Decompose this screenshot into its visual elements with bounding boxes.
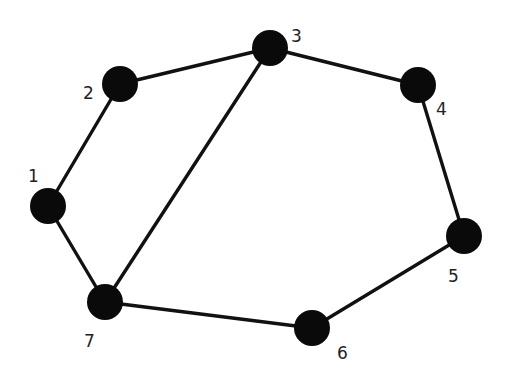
edge-3-4 — [270, 48, 418, 85]
node-label-3: 3 — [291, 26, 302, 46]
node-4 — [400, 67, 436, 103]
node-label-2: 2 — [83, 83, 94, 103]
edge-5-6 — [312, 236, 464, 328]
node-5 — [446, 218, 482, 254]
node-label-7: 7 — [84, 331, 95, 351]
edge-2-3 — [120, 48, 270, 84]
node-label-4: 4 — [436, 99, 447, 119]
node-label-1: 1 — [28, 166, 39, 186]
node-6 — [294, 310, 330, 346]
node-7 — [87, 284, 123, 320]
node-layer — [30, 30, 482, 346]
edge-6-7 — [105, 302, 312, 328]
node-1 — [30, 188, 66, 224]
node-label-5: 5 — [448, 266, 459, 286]
node-3 — [252, 30, 288, 66]
node-label-6: 6 — [337, 343, 348, 363]
graph-diagram: 1234567 — [0, 0, 505, 379]
node-2 — [102, 66, 138, 102]
